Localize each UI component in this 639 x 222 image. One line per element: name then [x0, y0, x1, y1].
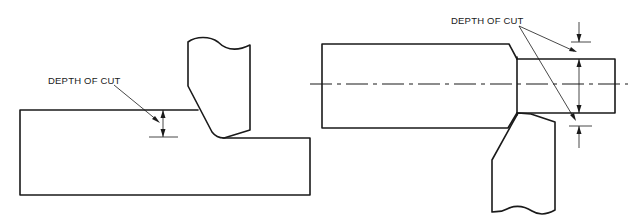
- right-leader-line-top: [519, 26, 574, 51]
- right-depth-dimension: [569, 22, 592, 148]
- left-cutting-tool: [188, 38, 250, 139]
- large-diameter-section: [322, 44, 517, 128]
- left-view: DEPTH OF CUT: [20, 38, 310, 196]
- right-depth-label: DEPTH OF CUT: [451, 15, 524, 26]
- right-leader-arrow-bottom-icon: [570, 113, 576, 121]
- right-leader-arrow-top-icon: [569, 47, 577, 52]
- right-view: DEPTH OF CUT: [310, 15, 628, 214]
- left-leader-line: [114, 85, 158, 121]
- left-depth-dimension: [149, 110, 178, 137]
- left-workpiece: [20, 110, 310, 195]
- left-depth-label: DEPTH OF CUT: [48, 75, 121, 86]
- depth-of-cut-diagram: DEPTH OF CUT DEPTH OF CUT: [0, 0, 639, 222]
- right-leader-line-bottom: [519, 26, 574, 118]
